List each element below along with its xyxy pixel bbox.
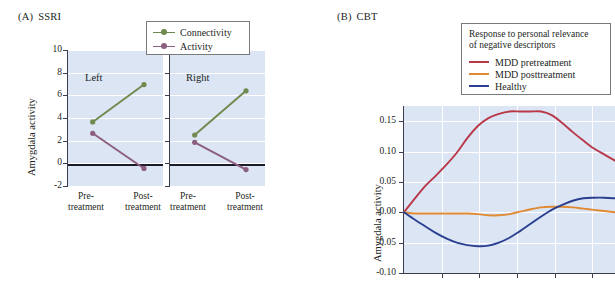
figure-container: (A)SSRI Amygdala activity 1086420-2 Left… xyxy=(0,0,615,294)
data-point xyxy=(90,119,95,124)
data-point xyxy=(243,88,248,93)
series-curve-mdd-pretreatment xyxy=(404,111,615,212)
series-line-connectivity xyxy=(93,85,144,122)
series-curve-healthy xyxy=(404,198,615,247)
series-curve-mdd-posttreatment xyxy=(404,207,615,216)
data-point xyxy=(141,82,146,87)
data-point xyxy=(192,132,197,137)
data-point xyxy=(192,140,197,145)
series-line-activity xyxy=(93,133,144,168)
data-series-layer xyxy=(0,0,615,294)
series-line-activity xyxy=(195,142,246,169)
data-point xyxy=(243,167,248,172)
data-point xyxy=(90,131,95,136)
series-line-connectivity xyxy=(195,91,246,135)
data-point xyxy=(141,166,146,171)
